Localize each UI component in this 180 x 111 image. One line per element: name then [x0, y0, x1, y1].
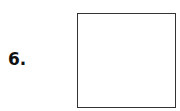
answer-box[interactable] [77, 13, 176, 108]
question-number-label: 6. [8, 50, 26, 68]
